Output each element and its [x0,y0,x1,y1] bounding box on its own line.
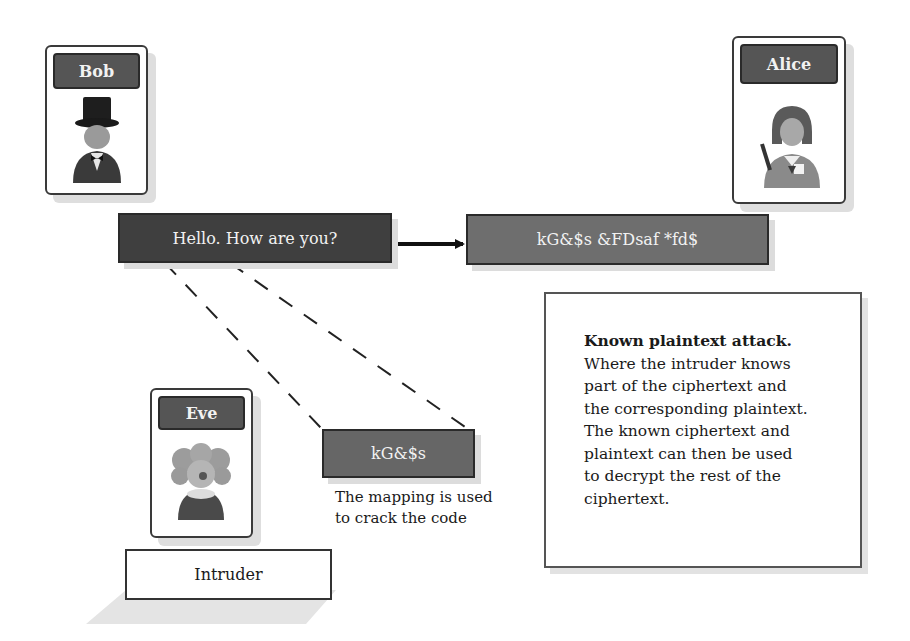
eve-card: Eve [150,388,253,538]
info-line: the corresponding plaintext. [584,398,840,421]
plaintext-message-box: Hello. How are you? [118,213,392,263]
info-title: Known plaintext attack. [584,330,840,353]
woman-avatar-icon [758,100,822,190]
alice-card: Alice [732,36,846,204]
info-line: The known ciphertext and [584,420,840,443]
info-line: to decrypt the rest of the [584,465,840,488]
caption-line: The mapping is used [335,487,493,508]
intruder-label: Intruder [194,565,262,584]
info-line: ciphertext. [584,488,840,511]
alice-label: Alice [740,44,838,84]
bob-card: Bob [45,45,148,195]
man-top-hat-icon [69,95,125,185]
info-line: Where the intruder knows [584,353,840,376]
intercepted-fragment: kG&$s [371,444,426,463]
eve-label: Eve [158,396,245,430]
caption-line: to crack the code [335,508,493,529]
clown-avatar-icon [170,442,232,522]
bob-label: Bob [53,53,140,89]
info-line: plaintext can then be used [584,443,840,466]
info-line: part of the ciphertext and [584,375,840,398]
known-plaintext-attack-description: Known plaintext attack. Where the intrud… [544,292,862,568]
intercepted-fragment-box: kG&$s [322,429,475,478]
intruder-label-box: Intruder [125,549,332,600]
plaintext-message: Hello. How are you? [173,229,338,248]
dashed-mapping-line-right [230,263,468,429]
ciphertext-message: kG&$s &FDsaf *fd$ [537,230,698,249]
mapping-caption: The mapping is used to crack the code [335,487,493,529]
ciphertext-message-box: kG&$s &FDsaf *fd$ [466,214,769,265]
